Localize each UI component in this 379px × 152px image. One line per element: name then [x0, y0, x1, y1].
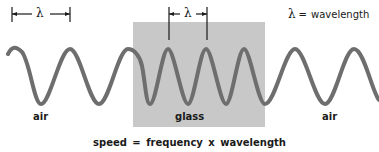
legend-equals: = — [299, 9, 307, 20]
refraction-diagram: λ λ λ=wavelength air glass air speed = f… — [0, 0, 379, 152]
air-wavelength-symbol: λ — [35, 7, 45, 19]
label-glass: glass — [175, 112, 204, 122]
label-air-right: air — [322, 112, 337, 122]
legend: λ=wavelength — [288, 8, 369, 20]
label-air-left: air — [33, 112, 48, 122]
speed-equation: speed = frequency x wavelength — [0, 138, 379, 148]
legend-symbol: λ — [288, 7, 296, 21]
glass-wavelength-symbol: λ — [183, 7, 193, 19]
legend-meaning: wavelength — [311, 9, 369, 20]
diagram-graphics — [0, 0, 379, 152]
